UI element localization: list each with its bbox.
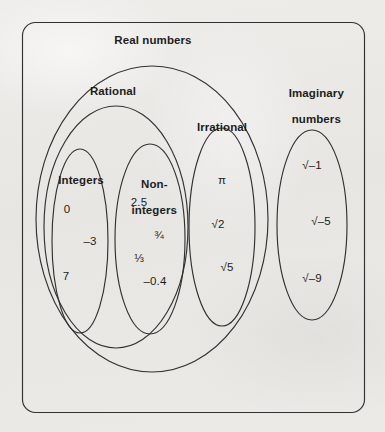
label-rational: Rational [68,85,158,98]
member-imaginary-2: √–9 [294,272,330,285]
rational-ellipse [44,106,188,348]
member-non-integers-3: –0.4 [138,275,172,288]
member-irrational-0: π [210,174,234,187]
member-imaginary-1: √–5 [303,215,339,228]
label-imaginary-line1: Imaginary [289,87,344,99]
label-imaginary-line2: numbers [292,113,341,125]
member-integers-1: –3 [76,235,104,248]
member-irrational-2: √5 [212,261,242,274]
label-non-integers-line1: Non- [141,178,168,190]
member-integers-0: 0 [55,203,79,216]
real-numbers-ellipse [36,66,268,372]
member-imaginary-0: √–1 [294,159,330,172]
label-irrational: Irrational [177,121,267,134]
member-irrational-1: √2 [203,218,233,231]
label-integers: Integers [50,174,112,187]
member-non-integers-1: ¾ [146,229,172,242]
label-real-numbers: Real numbers [103,34,203,47]
member-integers-2: 7 [54,270,78,283]
member-non-integers-0: 2.5 [124,196,154,209]
member-non-integers-2: ⅓ [126,252,152,265]
label-imaginary-numbers: Imaginary numbers [267,74,359,126]
